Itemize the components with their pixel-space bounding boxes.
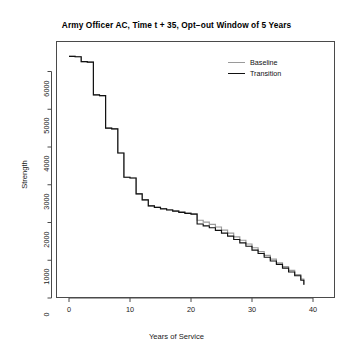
data-series-group xyxy=(69,56,304,284)
x-tick-label: 40 xyxy=(301,305,325,314)
chart-figure: Army Officer AC, Time t + 35, Opt−out Wi… xyxy=(0,0,353,356)
y-tick-label: 6000 xyxy=(42,71,51,105)
legend-label: Baseline xyxy=(250,58,278,67)
legend-item: Transition xyxy=(228,68,281,79)
x-axis-title: Years of Service xyxy=(0,332,353,341)
legend-swatch-icon xyxy=(228,73,245,74)
y-tick-label: 5000 xyxy=(42,109,51,143)
x-tick-label: 20 xyxy=(179,305,203,314)
x-tick-label: 30 xyxy=(240,305,264,314)
y-axis-title: Strength xyxy=(20,145,29,205)
axis-ticks xyxy=(48,72,314,303)
legend-item: Baseline xyxy=(228,57,281,68)
legend-swatch-icon xyxy=(228,62,245,63)
chart-canvas xyxy=(0,0,353,356)
y-tick-label: 1000 xyxy=(42,260,51,294)
chart-legend: BaselineTransition xyxy=(228,57,281,79)
x-tick-label: 10 xyxy=(118,305,142,314)
y-tick-label: 4000 xyxy=(42,147,51,181)
series-line-transition xyxy=(69,56,304,284)
series-line-baseline xyxy=(69,56,304,284)
legend-label: Transition xyxy=(250,69,281,78)
x-tick-label: 0 xyxy=(57,305,81,314)
y-tick-label: 2000 xyxy=(42,222,51,256)
y-tick-label: 3000 xyxy=(42,184,51,218)
y-tick-label: 0 xyxy=(42,298,51,332)
